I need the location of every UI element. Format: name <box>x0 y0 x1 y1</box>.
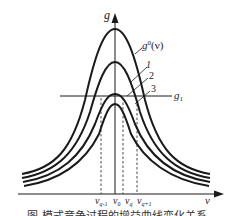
curve-2-label: 2 <box>149 70 154 81</box>
figure-caption: 图 模式竞争过程的增益曲线变化关系 <box>0 207 234 216</box>
curve-1 <box>22 62 210 178</box>
freq-label-q-plus-1: νq+1 <box>137 195 152 207</box>
curve-1-label: 1 <box>146 59 151 70</box>
y-axis-label: g <box>104 8 110 22</box>
freq-label-q: νq <box>125 195 132 207</box>
leader-1 <box>131 67 147 82</box>
threshold-label: g1 <box>174 89 184 103</box>
leader-g0 <box>135 48 142 54</box>
x-axis-label: ν <box>205 194 210 206</box>
x-axis-arrow-icon <box>214 191 224 198</box>
y-axis-arrow-icon <box>112 13 119 23</box>
curve-3-label: 3 <box>151 83 156 94</box>
gain-curve-diagram: g ν g0(ν) 1 2 3 g1 νq-1 ν0 νq νq+1 <box>0 0 234 216</box>
freq-label-q-minus-1: νq-1 <box>95 195 107 207</box>
freq-label-0: ν0 <box>113 195 120 207</box>
curve-g0-label: g0(ν) <box>142 39 164 52</box>
